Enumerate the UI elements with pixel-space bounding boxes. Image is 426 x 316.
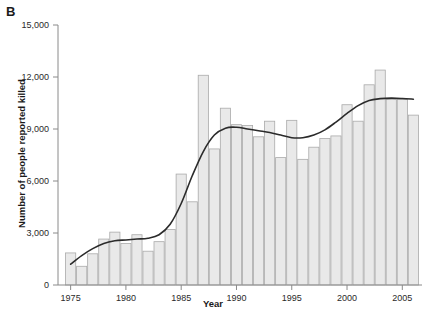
bar bbox=[320, 139, 330, 285]
bar bbox=[176, 174, 186, 285]
bar bbox=[154, 242, 164, 285]
bar bbox=[77, 266, 87, 285]
bar bbox=[99, 239, 109, 285]
bar bbox=[132, 235, 142, 285]
x-tick-label: 1990 bbox=[226, 293, 246, 303]
x-tick-label: 1985 bbox=[171, 293, 191, 303]
bar bbox=[165, 230, 175, 285]
bar bbox=[342, 105, 352, 285]
bar bbox=[287, 120, 297, 285]
bar bbox=[66, 253, 76, 285]
bar bbox=[386, 100, 396, 285]
bar bbox=[276, 158, 286, 285]
y-tick-label: 0 bbox=[44, 280, 49, 290]
bar bbox=[187, 202, 197, 285]
y-tick-label: 3,000 bbox=[26, 228, 49, 238]
y-tick-labels: 03,0006,0009,00012,00015,000 bbox=[21, 20, 58, 290]
bar bbox=[309, 147, 319, 285]
bar bbox=[353, 121, 363, 285]
bar bbox=[254, 137, 264, 285]
x-tick-label: 2005 bbox=[392, 293, 412, 303]
bar bbox=[265, 121, 275, 285]
bar bbox=[364, 85, 374, 285]
x-tick-label: 2000 bbox=[337, 293, 357, 303]
y-tick-label: 6,000 bbox=[26, 176, 49, 186]
bar bbox=[298, 159, 308, 285]
bar bbox=[231, 125, 241, 285]
bar bbox=[209, 149, 219, 285]
bar bbox=[143, 251, 153, 285]
chart-plot-area: 03,0006,0009,00012,00015,000 19751980198… bbox=[0, 0, 426, 316]
bar bbox=[242, 126, 252, 285]
x-tick-label: 1980 bbox=[116, 293, 136, 303]
bar bbox=[121, 243, 131, 285]
x-tick-labels: 1975198019851990199520002005 bbox=[61, 285, 413, 303]
bar bbox=[408, 115, 418, 285]
y-tick-label: 9,000 bbox=[26, 124, 49, 134]
figure-panel-b: B Number of people reported killed Year … bbox=[0, 0, 426, 316]
bar bbox=[88, 254, 98, 285]
bar bbox=[220, 108, 230, 285]
y-tick-label: 15,000 bbox=[21, 20, 49, 30]
bar bbox=[331, 136, 341, 285]
x-tick-label: 1975 bbox=[61, 293, 81, 303]
bar bbox=[198, 75, 208, 285]
y-tick-label: 12,000 bbox=[21, 72, 49, 82]
bar bbox=[397, 100, 407, 285]
bar bbox=[375, 70, 385, 285]
x-tick-label: 1995 bbox=[282, 293, 302, 303]
